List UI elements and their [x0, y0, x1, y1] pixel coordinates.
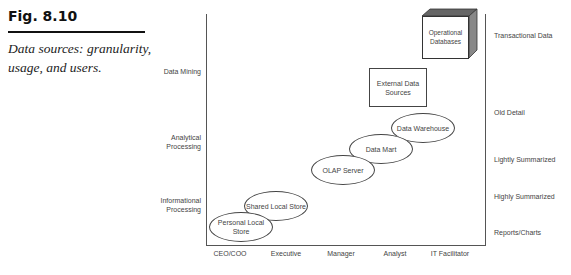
- right-label-reports-charts: Reports/Charts: [494, 229, 541, 236]
- y-label-informational-processing: Informational Processing: [151, 196, 201, 214]
- node-external-data-sources: External Data Sources: [369, 68, 427, 107]
- right-label-transactional-data: Transactional Data: [494, 32, 553, 39]
- figure-rule: [8, 31, 145, 33]
- x-label-it-facilitator: IT Facilitator: [431, 250, 469, 257]
- bottom-axis: [206, 245, 486, 246]
- node-personal-local-store: Personal Local Store: [209, 212, 273, 242]
- right-label-old-detail: Old Detail: [494, 109, 525, 116]
- left-axis: [206, 14, 207, 246]
- right-label-highly-summarized: Highly Summarized: [494, 193, 555, 200]
- node-olap-server: OLAP Server: [311, 155, 375, 185]
- figure-caption: Data sources: granularity, usage, and us…: [8, 39, 158, 77]
- node-operational-databases: Operational Databases: [422, 16, 469, 59]
- right-axis: [485, 14, 486, 246]
- y-label-analytical-processing: Analytical Processing: [159, 133, 201, 151]
- x-label-ceo-coo: CEO/COO: [213, 250, 246, 257]
- right-label-lightly-summarized: Lightly Summarized: [494, 156, 555, 163]
- figure-number: Fig. 8.10: [8, 8, 77, 24]
- x-label-manager: Manager: [327, 250, 355, 257]
- x-label-executive: Executive: [271, 250, 301, 257]
- x-label-analyst: Analyst: [384, 250, 407, 257]
- y-label-data-mining: Data Mining: [164, 67, 201, 76]
